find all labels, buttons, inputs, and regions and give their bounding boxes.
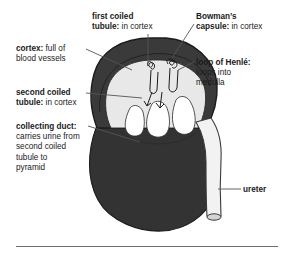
label-line: pyramid	[16, 163, 80, 173]
label-bowmans-capsule: Bowman’s capsule: in cortex	[196, 12, 262, 32]
label-line: first coiled	[92, 12, 153, 22]
label-line: tubule: in cortex	[16, 98, 77, 108]
label-line: carries urine from	[16, 132, 80, 142]
kidney-diagram-figure: first coiled tubule: in cortex Bowman’s …	[0, 0, 292, 256]
label-cortex: cortex: full of blood vessels	[16, 44, 66, 64]
label-line: tubule to	[16, 153, 80, 163]
label-line: cortex: full of	[16, 44, 66, 54]
label-line: medulla	[196, 78, 251, 88]
label-second-coiled-tubule: second coiled tubule: in cortex	[16, 88, 77, 108]
label-line: collecting duct:	[16, 122, 80, 132]
ureter-opening	[207, 214, 221, 220]
label-loop-of-henle: loop of Henlé: loops into medulla	[196, 58, 251, 89]
label-line: tubule: in cortex	[92, 22, 153, 32]
bottom-divider	[16, 246, 278, 247]
label-line: second coiled	[16, 142, 80, 152]
label-line: second coiled	[16, 88, 77, 98]
label-collecting-duct: collecting duct: carries urine from seco…	[16, 122, 80, 173]
label-line: Bowman’s	[196, 12, 262, 22]
label-line: capsule: in cortex	[196, 22, 262, 32]
label-line: blood vessels	[16, 54, 66, 64]
label-ureter: ureter	[243, 185, 266, 195]
label-line: ureter	[243, 185, 266, 195]
label-first-coiled-tubule: first coiled tubule: in cortex	[92, 12, 153, 32]
label-line: loop of Henlé:	[196, 58, 251, 68]
label-line: loops into	[196, 68, 251, 78]
